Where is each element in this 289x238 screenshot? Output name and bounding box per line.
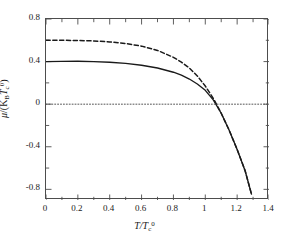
y-axis-title: μ/(KBTc0) [0,79,11,118]
y-tick-label: -0.4 [9,140,40,150]
x-tick-label: 1.4 [253,203,283,213]
y-tick-label: 0 [9,97,40,107]
x-axis-t-ratio: T/T [134,220,148,231]
plot-frame [45,18,268,199]
solid-curve [46,61,251,194]
y-tick-label: -0.8 [9,182,40,192]
axis-ticks-group [46,19,269,200]
figure-container: 00.20.40.60.811.21.4 0.80.40-0.4-0.8 μ/(… [0,0,289,238]
y-axis-sub-c: c [3,86,11,89]
x-axis-sup-zero: 0 [151,220,155,228]
plot-area-svg [46,19,269,200]
y-tick-label: 0.8 [9,12,40,22]
dashed-curve [46,40,251,194]
y-axis-denom-close: ) [0,79,9,82]
x-tick-label: 0.4 [94,203,124,213]
x-tick-label: 1 [189,203,219,213]
data-series-group [46,40,269,194]
x-tick-label: 0.6 [126,203,156,213]
y-tick-label: 0.4 [9,55,40,65]
x-tick-label: 0 [30,203,60,213]
x-tick-label: 0.2 [62,203,92,213]
y-axis-t-symbol: T [0,89,9,95]
x-tick-label: 1.2 [221,203,251,213]
y-axis-sub-b: B [3,95,11,100]
y-axis-sup-zero: 0 [0,83,6,87]
x-tick-label: 0.8 [157,203,187,213]
y-axis-mu-symbol: μ [0,113,9,118]
y-axis-denom-open: /(K [0,100,9,113]
x-axis-title: T/Tc0 [0,220,289,233]
